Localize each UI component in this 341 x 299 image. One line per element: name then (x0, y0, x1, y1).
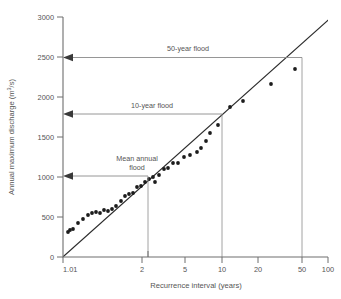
ten-year-arrowhead-icon (63, 110, 73, 117)
data-point (110, 207, 114, 211)
data-point (86, 213, 90, 217)
data-point (143, 180, 147, 184)
annotation-mean-annual-flood (63, 172, 148, 257)
data-point (106, 209, 110, 213)
y-tick-label: 500 (42, 213, 54, 222)
data-point (171, 161, 175, 165)
y-tick-label: 1500 (38, 133, 54, 142)
fifty-year-flood-label: 50-year flood (167, 44, 209, 53)
ten-year-flood-label: 10-year flood (131, 101, 173, 110)
mean-annual-flood-label-line2: flood (129, 163, 145, 172)
data-point (195, 150, 199, 154)
data-point (228, 105, 232, 109)
data-point (114, 204, 118, 208)
x-tick-label: 2 (140, 265, 144, 274)
x-tick-label: 10 (218, 265, 226, 274)
x-axis-title: Recurrence interval (years) (150, 281, 242, 290)
flood-frequency-chart: 3000 2500 2000 1500 1000 500 0 1.01 2 5 … (0, 0, 341, 299)
annotation-fifty-year-flood (63, 54, 302, 257)
data-point (94, 210, 98, 214)
data-point (131, 191, 135, 195)
data-point (182, 155, 186, 159)
data-point (151, 175, 155, 179)
x-tick-labels: 1.01 2 5 10 20 50 100 (63, 265, 334, 274)
data-point (139, 184, 143, 188)
data-point (157, 173, 161, 177)
x-tick-label: 1.01 (63, 265, 77, 274)
data-point (269, 82, 273, 86)
data-point (241, 99, 245, 103)
chart-canvas: 3000 2500 2000 1500 1000 500 0 1.01 2 5 … (0, 0, 341, 299)
y-tick-label: 2500 (38, 53, 54, 62)
data-point (123, 194, 127, 198)
fifty-year-arrowhead-icon (63, 54, 73, 61)
data-point (166, 166, 170, 170)
y-axis-title-tail: /s) (7, 78, 16, 87)
data-point (98, 211, 102, 215)
y-tick-label: 2000 (38, 93, 54, 102)
y-tick-label: 0 (50, 253, 54, 262)
x-tick-label: 20 (254, 265, 262, 274)
data-point (102, 208, 106, 212)
mean-annual-flood-label-line1: Mean annual (116, 154, 158, 163)
x-tick-label: 5 (183, 265, 187, 274)
data-point (208, 131, 212, 135)
data-point (71, 227, 75, 231)
y-axis-title-main: Annual maximum discharge (m (7, 90, 16, 195)
data-point (162, 167, 166, 171)
data-point (81, 217, 85, 221)
data-point (135, 185, 139, 189)
data-point (90, 211, 94, 215)
x-tick-label: 50 (298, 265, 306, 274)
data-point (204, 139, 208, 143)
data-point (188, 153, 192, 157)
data-point (216, 123, 220, 127)
data-point (76, 221, 80, 225)
y-tick-label: 1000 (38, 173, 54, 182)
x-tick-label: 100 (322, 265, 334, 274)
data-point (293, 67, 297, 71)
y-axis-title: Annual maximum discharge (m3/s) (6, 78, 16, 195)
y-tick-label: 3000 (38, 13, 54, 22)
y-tick-labels: 3000 2500 2000 1500 1000 500 0 (38, 13, 54, 262)
data-point (176, 161, 180, 165)
data-point (119, 199, 123, 203)
annotation-labels: 50-year flood 10-year flood Mean annual … (116, 44, 209, 172)
data-point (153, 180, 157, 184)
mean-annual-arrowhead-icon (63, 172, 73, 179)
data-point (199, 146, 203, 150)
data-point (127, 192, 131, 196)
